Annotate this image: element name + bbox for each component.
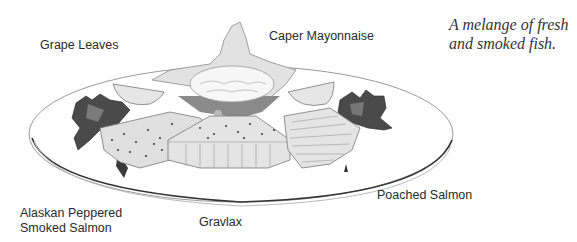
caption-line-1: A melange of fresh <box>449 16 569 34</box>
label-caper-mayonnaise: Caper Mayonnaise <box>269 29 374 43</box>
label-alaskan-line-2: Smoked Salmon <box>20 221 112 235</box>
label-grape-leaves: Grape Leaves <box>40 38 119 52</box>
label-alaskan-line-1: Alaskan Peppered <box>20 206 122 220</box>
label-poached-salmon: Poached Salmon <box>377 188 472 202</box>
caption-line-2: and smoked fish. <box>449 35 556 53</box>
label-gravlax: Gravlax <box>199 215 242 229</box>
